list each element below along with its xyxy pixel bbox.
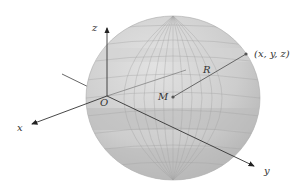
y-axis-label: y	[263, 165, 270, 176]
center-point	[171, 95, 174, 98]
z-axis-label: z	[91, 22, 98, 33]
radius-label: R	[202, 64, 211, 75]
sphere-diagram: z x y O M R (x, y, z)	[0, 0, 306, 192]
surface-point	[244, 52, 247, 55]
origin-label: O	[100, 97, 108, 108]
point-label: (x, y, z)	[254, 48, 290, 59]
sphere	[80, 16, 270, 188]
center-label: M	[157, 91, 169, 102]
x-axis-label: x	[17, 122, 23, 133]
